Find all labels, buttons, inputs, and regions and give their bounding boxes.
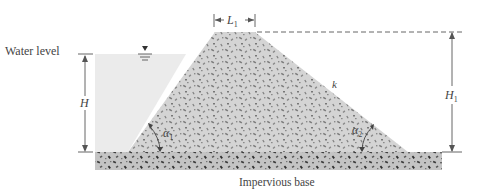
water-height-label: H [79,96,90,110]
impervious-base [95,152,442,170]
water-level-label: Water level [5,44,60,58]
dam-diagram: H H1 L1 k α1 α2 Water level Impervious b… [0,0,480,193]
crest-width-label: L1 [226,13,238,29]
impervious-base-label: Impervious base [239,176,315,189]
permeability-label: k [332,78,338,90]
dam-height-label: H1 [444,88,458,104]
